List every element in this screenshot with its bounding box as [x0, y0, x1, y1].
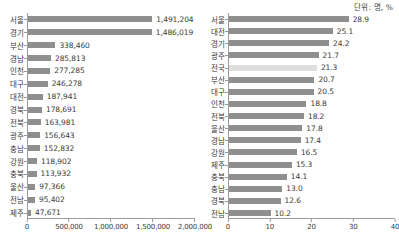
value-label: 277,285 [54, 66, 84, 75]
category-label: 전남 [10, 194, 24, 205]
category-label: 부산 [10, 40, 24, 51]
value-label: 13.0 [286, 184, 302, 193]
bar-row: 경북178,691 [27, 103, 195, 116]
x-tick-mark [26, 219, 27, 222]
x-tick: 500,000 [55, 219, 83, 231]
category-label: 강원 [211, 147, 225, 158]
x-tick-label: 20 [307, 223, 316, 231]
value-label: 95,402 [39, 195, 65, 204]
x-tick-mark [194, 219, 195, 222]
bar [27, 171, 37, 177]
bar [27, 55, 51, 61]
x-tick: 0 [25, 219, 29, 231]
category-label: 경북 [211, 195, 225, 206]
category-label: 전북 [10, 117, 24, 128]
bar-row: 강원118,902 [27, 155, 195, 168]
bar-row: 경기24.2 [228, 37, 395, 49]
bar-highlight [228, 65, 317, 71]
category-label: 광주 [211, 50, 225, 61]
bar-row: 강원16.5 [228, 146, 395, 158]
value-label: 47,671 [35, 208, 61, 217]
bar-row: 경남285,813 [27, 52, 195, 65]
category-label: 서울 [211, 14, 225, 25]
bar-row: 경북12.6 [228, 195, 395, 207]
value-label: 118,902 [41, 157, 71, 166]
bar-row: 울산97,366 [27, 180, 195, 193]
x-axis-ticks-counts: 0500,0001,000,0001,500,0002,000,000 [27, 219, 195, 241]
x-axis-ticks-percent: 010203040 [228, 219, 395, 241]
bar [228, 125, 302, 131]
bar [27, 158, 37, 164]
category-label: 충남 [211, 183, 225, 194]
bar-row: 서울28.9 [228, 13, 395, 25]
category-label: 인천 [10, 65, 24, 76]
bar [27, 132, 40, 138]
bar [27, 68, 50, 74]
bar-row: 광주156,643 [27, 129, 195, 142]
bar [228, 198, 281, 204]
x-axis-line-counts [27, 218, 195, 219]
x-tick-mark [311, 219, 312, 222]
bar-row: 전남95,402 [27, 193, 195, 206]
x-tick-mark [68, 219, 69, 222]
bar-row: 전국21.3 [228, 62, 395, 74]
x-tick: 10 [265, 219, 274, 231]
bar [228, 210, 271, 216]
value-label: 14.1 [291, 172, 307, 181]
x-tick-label: 500,000 [55, 223, 83, 231]
value-label: 28.9 [353, 15, 369, 24]
bar [27, 29, 152, 35]
bar-rows-counts: 서울1,491,204경기1,486,019부산338,460경남285,813… [27, 13, 195, 219]
bar [228, 149, 297, 155]
bar [228, 101, 306, 107]
x-tick-label: 40 [391, 223, 399, 231]
category-label: 충북 [211, 171, 225, 182]
x-tick-label: 0 [226, 223, 230, 231]
value-label: 187,941 [47, 92, 77, 101]
bar [27, 119, 41, 125]
value-label: 178,691 [46, 105, 76, 114]
bar-row: 충북113,932 [27, 168, 195, 181]
category-label: 울산 [211, 123, 225, 134]
x-tick-mark [227, 219, 228, 222]
category-label: 경기 [10, 27, 24, 38]
bar [27, 42, 55, 48]
bar [228, 89, 314, 95]
bar [228, 16, 349, 22]
value-label: 17.4 [305, 136, 321, 145]
category-label: 충남 [10, 143, 24, 154]
bar [27, 81, 48, 87]
bar-row: 경기1,486,019 [27, 26, 195, 39]
value-label: 21.7 [323, 51, 339, 60]
bar [228, 174, 287, 180]
bar [228, 162, 292, 168]
value-label: 20.7 [318, 75, 334, 84]
x-tick-mark [353, 219, 354, 222]
value-label: 1,486,019 [156, 28, 193, 37]
value-label: 10.2 [275, 209, 291, 218]
value-label: 21.3 [321, 63, 337, 72]
value-label: 18.8 [310, 99, 326, 108]
value-label: 17.8 [306, 124, 322, 133]
bar-row: 서울1,491,204 [27, 13, 195, 26]
value-label: 16.5 [301, 148, 317, 157]
bar-row: 광주21.7 [228, 49, 395, 61]
bar-row: 대구246,278 [27, 77, 195, 90]
value-label: 12.6 [285, 196, 301, 205]
unit-note: 단위: 명, % [354, 1, 393, 12]
value-label: 1,491,204 [156, 15, 193, 24]
bar-row: 인천18.8 [228, 98, 395, 110]
chart-panel-percent: 서울28.9대전25.1경기24.2광주21.7전국21.3부산20.7대구20… [200, 13, 397, 241]
category-label: 경남 [211, 135, 225, 146]
x-tick: 20 [307, 219, 316, 231]
category-label: 대전 [10, 91, 24, 102]
bar [228, 137, 301, 143]
bar [228, 52, 319, 58]
category-label: 인천 [211, 98, 225, 109]
category-label: 광주 [10, 130, 24, 141]
category-label: 대전 [211, 26, 225, 37]
bar [228, 186, 282, 192]
category-label: 전북 [211, 111, 225, 122]
value-label: 163,981 [45, 118, 75, 127]
x-tick: 40 [391, 219, 399, 231]
